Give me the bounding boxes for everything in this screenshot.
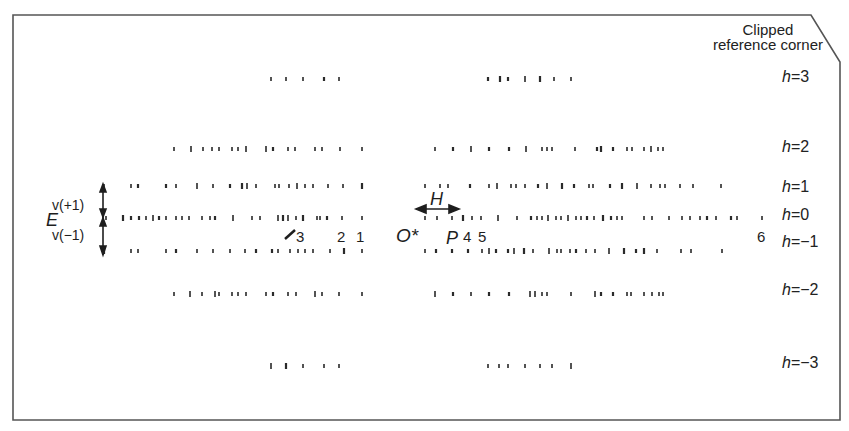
spot <box>609 184 611 188</box>
spot <box>130 216 132 220</box>
spot <box>302 77 304 81</box>
spot <box>534 291 536 297</box>
spot <box>265 146 267 152</box>
spot <box>287 292 289 296</box>
layer-label: h=0 <box>782 207 809 223</box>
spot <box>270 77 272 81</box>
spot <box>580 216 582 220</box>
spot <box>556 249 558 253</box>
spot <box>621 216 623 220</box>
index-1-label: 1 <box>356 229 364 244</box>
spot <box>201 292 203 296</box>
spot <box>272 292 274 296</box>
spot <box>530 216 532 220</box>
spot <box>282 215 284 221</box>
spot <box>469 184 471 188</box>
spot <box>626 147 628 151</box>
spot <box>173 292 175 296</box>
spot <box>470 292 472 296</box>
spot <box>245 146 247 152</box>
spot <box>295 292 297 296</box>
spot <box>296 183 298 189</box>
spot <box>259 216 261 220</box>
spot <box>327 184 329 188</box>
index-6-label: 6 <box>757 229 765 244</box>
spot <box>202 147 204 151</box>
spot <box>231 292 233 296</box>
index-2-label: 2 <box>337 229 345 244</box>
spot <box>574 147 576 151</box>
spot <box>681 216 683 220</box>
spot <box>105 216 107 220</box>
spot <box>600 146 602 152</box>
spot <box>546 183 548 189</box>
spot <box>657 147 659 151</box>
spot <box>471 216 473 220</box>
spot <box>553 77 555 81</box>
spot <box>650 184 652 188</box>
spot <box>447 184 449 188</box>
spot <box>302 215 304 221</box>
layer-label-h: h <box>782 68 791 85</box>
spot <box>137 184 139 188</box>
spot <box>323 77 325 81</box>
spot-3-marker <box>285 230 295 239</box>
spot <box>570 292 572 296</box>
spot <box>551 147 553 151</box>
spot <box>524 364 526 368</box>
spot <box>244 249 246 253</box>
spot <box>229 184 231 188</box>
h-label: H <box>430 190 443 208</box>
spot <box>285 77 287 81</box>
spot <box>302 364 304 368</box>
spot <box>452 292 454 296</box>
spot <box>188 216 190 220</box>
spot <box>608 248 610 254</box>
spot <box>321 147 323 151</box>
spot <box>165 184 167 188</box>
spot <box>508 292 510 296</box>
spot <box>237 147 239 151</box>
spot <box>680 249 682 253</box>
spot <box>175 249 177 253</box>
spot <box>560 249 562 253</box>
spot <box>251 216 253 220</box>
spot-row-h-1 <box>103 248 723 254</box>
spot <box>323 364 325 368</box>
spot <box>434 291 436 297</box>
spot <box>181 216 183 220</box>
spot <box>342 184 344 188</box>
spot <box>288 184 290 188</box>
layer-label-value: =2 <box>791 138 809 155</box>
spot <box>289 249 291 253</box>
spot <box>690 249 692 253</box>
spot <box>507 77 509 81</box>
spot <box>487 77 489 81</box>
reflection-spots <box>103 76 763 369</box>
spot <box>570 363 572 369</box>
spot <box>314 291 316 297</box>
spot <box>736 216 738 220</box>
spot <box>596 147 598 151</box>
spot <box>602 215 604 221</box>
spot <box>523 248 525 254</box>
spot <box>721 249 723 253</box>
spot-row-h-2 <box>173 291 664 297</box>
spot <box>138 216 140 220</box>
spot <box>643 216 645 220</box>
spot <box>547 215 549 221</box>
spot <box>569 249 571 253</box>
corner-label-line2: reference corner <box>713 37 823 52</box>
spot <box>271 249 273 253</box>
spot <box>567 215 569 221</box>
spot <box>720 184 722 188</box>
layer-label-value: =1 <box>791 178 809 195</box>
spot <box>487 364 489 368</box>
spot <box>539 76 541 82</box>
spot <box>231 147 233 151</box>
spot <box>631 147 633 151</box>
spot-row-h2 <box>173 146 664 152</box>
spot <box>541 216 543 220</box>
spot <box>706 216 708 220</box>
spot <box>546 147 548 151</box>
